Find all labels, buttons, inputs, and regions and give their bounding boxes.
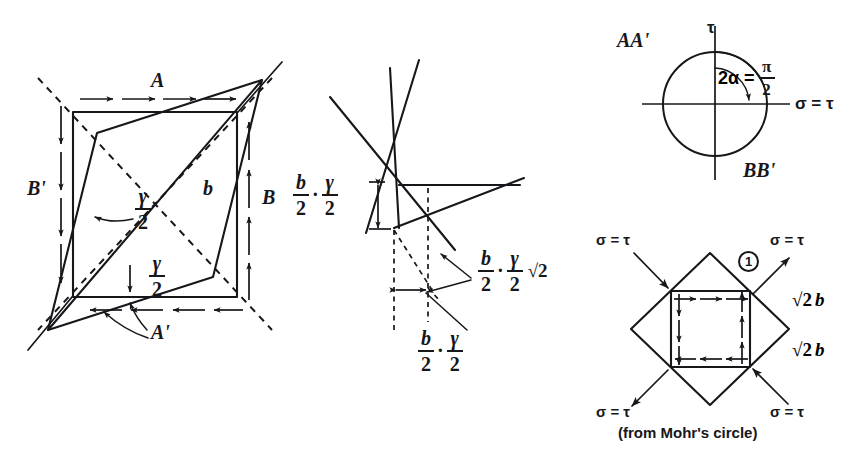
stress-arrow-bottom-right (753, 369, 788, 404)
vertical-offset-second-fraction: γ 2 (322, 172, 338, 218)
label-edge-sqrt2-b-lower: √2 b (792, 339, 824, 361)
two-alpha-denominator: 2 (760, 81, 773, 98)
diagonal-second-bar (507, 270, 523, 272)
label-horizontal-offset: b 2 · γ 2 (418, 328, 463, 374)
diagonal-sqrt-two: √2 (526, 260, 548, 282)
vertical-offset-first-bar (293, 194, 309, 196)
label-point-bb-prime: BB' (743, 160, 775, 180)
two-alpha-fraction-bar (759, 77, 775, 79)
detail-horizontal-leader (426, 293, 467, 330)
horizontal-first-numerator: b (419, 328, 433, 348)
label-side-length-b: b (203, 178, 213, 198)
horizontal-first-bar (418, 350, 434, 352)
inner-square (671, 291, 750, 367)
label-diagonal-offset: b 2 · γ 2 √2 (478, 248, 548, 294)
gamma-upper-numerator: γ (137, 186, 149, 206)
detail-diagonal-leader-down (427, 280, 471, 292)
label-edge-b: B (262, 187, 275, 207)
edge-upper-radical: √2 (792, 289, 812, 311)
horizontal-first-denominator: 2 (419, 354, 433, 374)
gamma-lower-leader (130, 303, 147, 330)
figure-caption: (from Mohr's circle) (618, 424, 757, 441)
gamma-lower-denominator: 2 (150, 279, 164, 299)
horizontal-second-denominator: 2 (448, 354, 462, 374)
figure-drawing (0, 0, 842, 453)
horizontal-first-fraction: b 2 (418, 328, 434, 374)
vertical-offset-second-denominator: 2 (323, 198, 337, 218)
stress-arrow-bottom-left (632, 370, 668, 406)
figure-root: A A' B B' b γ 2 γ 2 b 2 · γ 2 b 2 · (0, 0, 842, 453)
gamma-upper-denominator: 2 (136, 212, 150, 232)
horizontal-second-fraction: γ 2 (447, 328, 463, 374)
detail-rotated-edge (366, 60, 419, 233)
label-stress-bottom-left: σ = τ (596, 404, 630, 419)
panel-stress-graphics (631, 253, 789, 406)
diagonal-second-fraction: γ 2 (507, 248, 523, 294)
label-two-alpha-equation: 2α = π 2 (718, 58, 775, 98)
label-gamma-over-two-upper: γ 2 (135, 186, 151, 232)
two-alpha-lhs: 2α = (718, 68, 755, 89)
diagonal-second-numerator: γ (509, 248, 521, 268)
vertical-offset-first-denominator: 2 (294, 198, 308, 218)
gamma-upper-fraction-bar (135, 208, 151, 210)
diagonal-first-denominator: 2 (479, 274, 493, 294)
gamma-lower-fraction-bar (149, 275, 165, 277)
panel-mohr-graphics (642, 26, 790, 180)
edge-upper-variable: b (815, 289, 825, 311)
diagonal-first-bar (478, 270, 494, 272)
detail-dashed-hypotenuse (394, 230, 432, 290)
detail-diagonal-leader-up (441, 254, 471, 278)
callout-badge-1: 1 (738, 251, 759, 272)
label-gamma-over-two-lower: γ 2 (149, 253, 165, 299)
label-stress-top-left: σ = τ (596, 232, 630, 247)
diagonal-first-numerator: b (479, 248, 493, 268)
label-edge-b-prime: B' (27, 178, 46, 198)
horizontal-second-numerator: γ (449, 328, 461, 348)
two-alpha-fraction: π 2 (759, 58, 775, 98)
gamma-upper-leader (95, 217, 133, 221)
a-prime-leader (104, 312, 148, 338)
edge-lower-variable: b (815, 339, 825, 361)
edge-lower-radical: √2 (792, 339, 812, 361)
gamma-lower-numerator: γ (151, 253, 163, 273)
diagonal-dot: · (497, 259, 504, 284)
stress-arrow-top-left (634, 253, 668, 288)
label-sigma-equals-tau-axis: σ = τ (795, 95, 834, 112)
horizontal-second-bar (447, 350, 463, 352)
label-vertical-offset: b 2 · γ 2 (293, 172, 338, 218)
vertical-offset-first-numerator: b (294, 172, 308, 192)
vertical-offset-first-fraction: b 2 (293, 172, 309, 218)
two-alpha-numerator: π (760, 58, 773, 75)
diagonal-first-fraction: b 2 (478, 248, 494, 294)
label-edge-a: A (151, 70, 164, 90)
label-stress-bottom-right: σ = τ (770, 404, 804, 419)
label-point-aa-prime: AA' (617, 30, 649, 50)
label-tau-axis: τ (707, 19, 715, 36)
vertical-offset-second-numerator: γ (324, 172, 336, 192)
vertical-offset-second-bar (322, 194, 338, 196)
label-edge-a-prime: A' (151, 322, 170, 342)
guide-line-top-right (238, 62, 282, 112)
label-edge-sqrt2-b-upper: √2 b (792, 289, 824, 311)
panel-distortion-graphics (28, 62, 282, 350)
horizontal-dot: · (437, 339, 444, 364)
diagonal-second-denominator: 2 (508, 274, 522, 294)
vertical-offset-dot: · (312, 183, 319, 208)
label-stress-top-right: σ = τ (770, 232, 804, 247)
